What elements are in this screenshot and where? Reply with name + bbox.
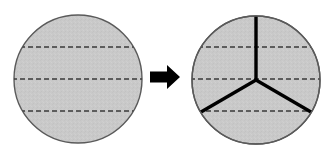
left-circle-group: [12, 15, 144, 143]
circle-division-diagram: [0, 0, 329, 155]
arrow-right-icon: [150, 65, 180, 89]
right-circle-group: [190, 16, 322, 144]
figure-container: [0, 0, 329, 155]
arrow-right-shape: [150, 65, 180, 89]
